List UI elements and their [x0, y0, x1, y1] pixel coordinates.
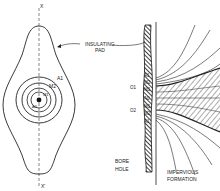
- borehole-label: BORE: [115, 158, 130, 164]
- svg-text:M2: M2: [144, 80, 151, 85]
- svg-text:HOLE: HOLE: [115, 166, 129, 172]
- pad-face-view: A1 M2 M1 A0 X X': [3, 3, 80, 189]
- svg-text:O2: O2: [130, 108, 137, 113]
- svg-text:A0: A0: [144, 96, 150, 101]
- label-m1: M1: [43, 92, 49, 97]
- svg-text:M1: M1: [144, 104, 151, 109]
- svg-text:FORMATION: FORMATION: [167, 176, 197, 182]
- label-a1: A1: [57, 75, 63, 81]
- svg-text:O1: O1: [130, 85, 137, 90]
- svg-text:A1: A1: [144, 73, 150, 78]
- formation-label: IMPERVIOUS: [167, 169, 199, 175]
- svg-text:PAD: PAD: [95, 47, 105, 53]
- svg-text:M2: M2: [144, 111, 151, 116]
- microlaterolog-diagram: A1 M2 M1 A0 X X' INSULATING PAD: [0, 0, 220, 191]
- svg-text:M1: M1: [144, 87, 151, 92]
- label-m2: M2: [49, 83, 56, 89]
- label-a0: A0: [32, 104, 38, 109]
- axis-bottom-label: X': [41, 183, 45, 189]
- diagram-canvas: A1 M2 M1 A0 X X' INSULATING PAD: [0, 0, 220, 191]
- svg-text:A1: A1: [144, 119, 150, 124]
- pad-side-view: A1 M2 O1 M1 A0 M1 O2 M2 A1 BORE HOLE IMP…: [115, 22, 220, 185]
- electrode-a0: [37, 98, 42, 103]
- axis-top-label: X: [40, 3, 44, 9]
- focused-current-beam: [156, 68, 220, 132]
